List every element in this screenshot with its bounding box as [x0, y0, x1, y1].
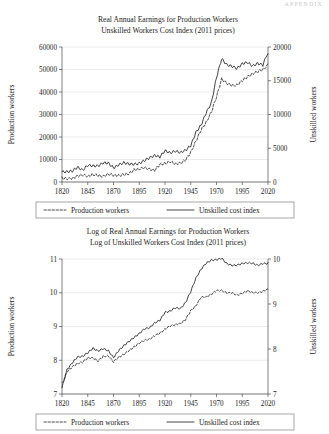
figure-page: APPENDIX Real Annual Earnings for Produc…: [0, 0, 329, 434]
chart-title-line2: Log of Unskilled Workers Cost Index (201…: [90, 238, 247, 247]
y-tick-label-left: 11: [50, 256, 57, 264]
x-tick-label: 1920: [158, 400, 173, 408]
running-head: APPENDIX: [285, 1, 323, 7]
y-tick-label-right: 15000: [273, 77, 291, 85]
x-tick-label: 1970: [209, 400, 224, 408]
x-tick-label: 2020: [261, 188, 276, 196]
legend-label-dashed: Production workers: [71, 206, 129, 215]
y-tick-label-left: 0: [53, 179, 57, 187]
series-line-dashed: [62, 289, 268, 383]
legend-label-solid: Unskilled cost index: [199, 418, 260, 427]
y-tick-label-right: 10: [273, 256, 281, 264]
x-tick-label: 1895: [132, 188, 147, 196]
series-line-dashed: [62, 64, 268, 180]
y-tick-label-right: 20000: [273, 44, 291, 52]
y-tick-label-left: 7: [53, 391, 57, 399]
chart-title-line1: Log of Real Annual Earnings for Producti…: [87, 227, 249, 236]
chart-title-line2: Unskilled Workers Cost Index (2011 price…: [101, 26, 235, 35]
series-line-solid: [62, 258, 268, 388]
x-tick-label: 1895: [132, 400, 147, 408]
x-tick-label: 1845: [81, 188, 96, 196]
y-tick-label-right: 7: [273, 391, 277, 399]
x-tick-label: 1920: [158, 188, 173, 196]
x-tick-label: 1870: [106, 400, 121, 408]
y-tick-label-right: 0: [273, 179, 277, 187]
x-tick-label: 1820: [55, 400, 70, 408]
x-tick-label: 1870: [106, 188, 121, 196]
y-tick-label-right: 8: [273, 346, 277, 354]
figure-logs: Log of Real Annual Earnings for Producti…: [0, 222, 329, 434]
x-tick-label: 1845: [81, 400, 96, 408]
x-tick-label: 2020: [261, 400, 276, 408]
y-tick-label-left: 30000: [39, 111, 57, 119]
y-axis-label-left: Production workers: [7, 297, 16, 357]
x-tick-label: 1995: [235, 188, 250, 196]
chart-levels: Real Annual Earnings for Production Work…: [0, 10, 329, 220]
y-tick-label-left: 9: [53, 323, 57, 331]
chart-title-line1: Real Annual Earnings for Production Work…: [98, 15, 238, 24]
y-tick-label-right: 10000: [273, 111, 291, 119]
y-tick-label-left: 10: [50, 289, 58, 297]
y-tick-label-right: 9: [273, 301, 277, 309]
y-tick-label-left: 60000: [39, 44, 57, 52]
y-axis-label-right: Unskilled workers: [309, 87, 318, 143]
legend-label-solid: Unskilled cost index: [199, 206, 260, 215]
chart-logs: Log of Real Annual Earnings for Producti…: [0, 222, 329, 434]
y-tick-label-left: 50000: [39, 66, 57, 74]
y-tick-label-left: 20000: [39, 134, 57, 142]
figure-levels: Real Annual Earnings for Production Work…: [0, 10, 329, 220]
legend-label-dashed: Production workers: [71, 418, 129, 427]
y-tick-label-left: 40000: [39, 89, 57, 97]
y-tick-label-left: 8: [53, 357, 57, 365]
y-axis-label-left: Production workers: [7, 85, 16, 145]
x-tick-label: 1945: [184, 400, 199, 408]
x-tick-label: 1995: [235, 400, 250, 408]
x-tick-label: 1970: [209, 188, 224, 196]
x-tick-label: 1820: [55, 188, 70, 196]
x-tick-label: 1945: [184, 188, 199, 196]
y-tick-label-right: 5000: [273, 145, 288, 153]
y-tick-label-left: 10000: [39, 156, 57, 164]
y-axis-label-right: Unskilled workers: [309, 299, 318, 355]
series-line-solid: [62, 54, 268, 173]
